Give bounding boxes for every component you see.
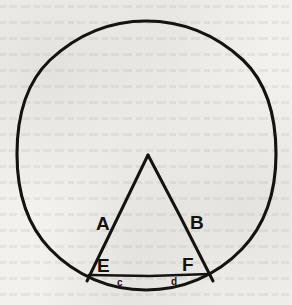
- geometry-diagram: A B E F c d: [0, 0, 292, 305]
- label-c: c: [117, 277, 123, 288]
- label-F: F: [182, 254, 194, 275]
- label-E: E: [97, 255, 110, 276]
- label-d: d: [171, 276, 177, 287]
- figure-page: A B E F c d: [0, 0, 292, 305]
- label-B: B: [190, 212, 204, 233]
- label-A: A: [96, 213, 110, 234]
